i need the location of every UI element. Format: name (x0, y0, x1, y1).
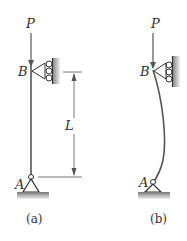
support-b-label-a: B (17, 64, 28, 79)
figure-a: P B L (14, 16, 82, 226)
load-arrow-a (28, 33, 34, 67)
load-arrow-b (150, 33, 156, 69)
roller-support-b-a (32, 58, 60, 84)
column-buckling-diagram: P B L (0, 0, 187, 241)
support-a-label-a: A (14, 177, 24, 192)
support-a-label-b: A (138, 175, 148, 190)
dimension-l: L (38, 72, 82, 177)
figure-b: P B A (b) (138, 16, 180, 226)
length-label: L (64, 118, 74, 133)
support-b-label-b: B (139, 64, 150, 79)
load-label-a: P (25, 16, 35, 31)
load-label-b: P (150, 16, 160, 31)
caption-a: (a) (26, 212, 43, 226)
buckled-column-b (153, 70, 165, 183)
roller-support-b-b (154, 56, 180, 87)
caption-b: (b) (150, 212, 167, 226)
